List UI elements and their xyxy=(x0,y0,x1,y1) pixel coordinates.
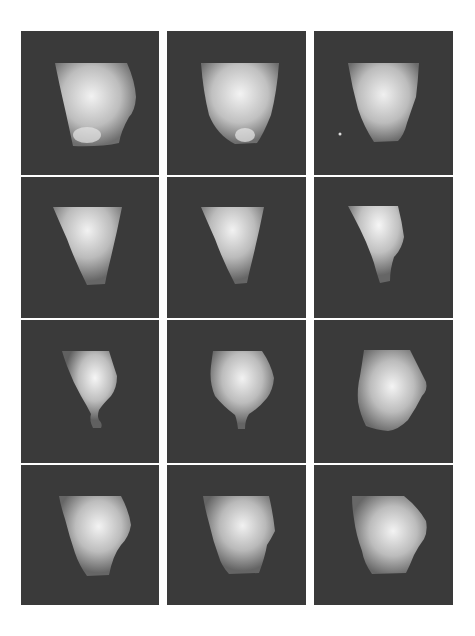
heart-surface-render xyxy=(21,177,159,318)
panel-frame-11 xyxy=(167,465,306,605)
panel-frame-4 xyxy=(21,177,159,318)
heart-surface-render xyxy=(314,177,453,318)
heart-surface-render xyxy=(314,465,453,605)
panel-frame-6 xyxy=(314,177,453,318)
panel-frame-7 xyxy=(21,320,159,463)
heart-surface-render xyxy=(167,31,306,175)
panel-frame-2 xyxy=(167,31,306,175)
heart-surface-render xyxy=(21,465,159,605)
heart-surface-render xyxy=(21,31,159,175)
panel-frame-12 xyxy=(314,465,453,605)
heart-surface-render xyxy=(167,320,306,463)
figure-grid xyxy=(21,31,453,605)
heart-surface-render xyxy=(314,320,453,463)
panel-frame-8 xyxy=(167,320,306,463)
panel-frame-10 xyxy=(21,465,159,605)
panel-frame-1 xyxy=(21,31,159,175)
heart-surface-render xyxy=(21,320,159,463)
heart-surface-render xyxy=(167,465,306,605)
heart-surface-render xyxy=(167,177,306,318)
heart-surface-render xyxy=(314,31,453,175)
panel-frame-3 xyxy=(314,31,453,175)
panel-frame-9 xyxy=(314,320,453,463)
panel-frame-5 xyxy=(167,177,306,318)
